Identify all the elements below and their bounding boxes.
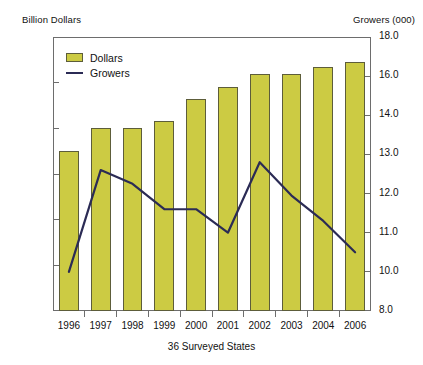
bar-2000: [186, 99, 206, 311]
y-axis-tick-mark: [53, 82, 59, 83]
x-axis-label-2003: 2003: [275, 320, 309, 331]
y2-axis-tick-mark: [365, 232, 371, 233]
y2-axis-tick-mark: [365, 154, 371, 155]
bar-1997: [91, 128, 111, 311]
x-axis-tick-mark: [339, 311, 340, 317]
legend-label-dollars: Dollars: [90, 52, 123, 64]
y2-axis-tick-mark: [365, 76, 371, 77]
y2-axis-tick-mark: [365, 115, 371, 116]
x-axis-label-2004: 2004: [306, 320, 340, 331]
chart-figure: Billion Dollars Growers (000) 0.01.02.03…: [0, 0, 423, 365]
y2-axis-tick-label: 8.0: [379, 305, 393, 315]
x-axis-label-1998: 1998: [116, 320, 150, 331]
y2-axis-tick-mark: [365, 193, 371, 194]
bar-2004: [313, 67, 333, 311]
y2-axis-tick-label: 18.0: [379, 31, 398, 41]
y2-axis-tick-label: 13.0: [379, 148, 398, 158]
x-axis-tick-mark: [275, 311, 276, 317]
legend-item-growers: Growers: [66, 65, 130, 80]
x-axis-label-1999: 1999: [147, 320, 181, 331]
bar-1998: [123, 128, 143, 311]
left-axis-caption: Billion Dollars: [22, 14, 81, 25]
x-axis-tick-mark: [212, 311, 213, 317]
legend-item-dollars: Dollars: [66, 50, 130, 65]
x-axis-label-2001: 2001: [211, 320, 245, 331]
x-axis-tick-mark: [84, 311, 85, 317]
y2-axis-tick-label: 16.0: [379, 70, 398, 80]
x-axis-label-1997: 1997: [84, 320, 118, 331]
legend-swatch-dollars-icon: [66, 53, 83, 62]
chart-legend: Dollars Growers: [66, 50, 130, 80]
y-axis-tick-mark: [53, 128, 59, 129]
x-axis-tick-mark: [180, 311, 181, 317]
x-axis-tick-mark: [307, 311, 308, 317]
bar-2003: [282, 74, 302, 311]
x-axis-tick-mark: [148, 311, 149, 317]
x-axis-tick-mark: [243, 311, 244, 317]
x-axis-label-2000: 2000: [179, 320, 213, 331]
y2-axis-tick-label: 14.0: [379, 109, 398, 119]
x-axis-tick-mark: [116, 311, 117, 317]
x-axis-label-2002: 2002: [243, 320, 277, 331]
x-axis-label-2006: 2006: [338, 320, 372, 331]
y2-axis-tick-label: 12.0: [379, 188, 398, 198]
x-axis-label-1996: 1996: [52, 320, 86, 331]
bar-1999: [154, 121, 174, 311]
y2-axis-tick-label: 10.0: [379, 266, 398, 276]
bar-2006: [345, 62, 365, 311]
bar-2002: [250, 74, 270, 311]
legend-label-growers: Growers: [90, 67, 130, 79]
x-axis-title: 36 Surveyed States: [0, 341, 423, 352]
y2-axis-tick-mark: [365, 271, 371, 272]
legend-swatch-growers-icon: [66, 72, 83, 74]
right-axis-caption: Growers (000): [353, 14, 415, 25]
bar-1996: [59, 151, 79, 311]
y2-axis-tick-label: 11.0: [379, 227, 398, 237]
bar-2001: [218, 87, 238, 311]
